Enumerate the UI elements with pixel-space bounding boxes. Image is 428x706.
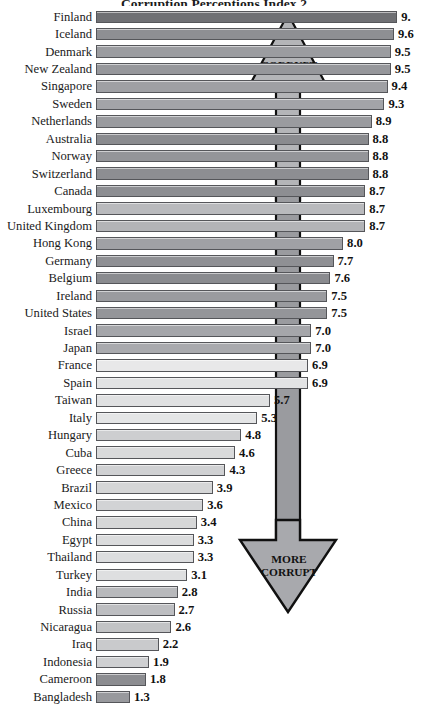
bar-row: Iraq2.2 bbox=[0, 636, 428, 653]
bar-value-label: 7.6 bbox=[334, 271, 350, 285]
bar-row: Denmark9.5 bbox=[0, 43, 428, 60]
bar-category-label: Taiwan bbox=[0, 393, 92, 407]
bar-value-label: 8.8 bbox=[373, 132, 389, 146]
bar bbox=[96, 394, 270, 406]
bar-row: France6.9 bbox=[0, 357, 428, 374]
bar-row: Turkey3.1 bbox=[0, 566, 428, 583]
bar-value-label: 3.3 bbox=[198, 533, 214, 547]
bar-value-label: 2.7 bbox=[179, 603, 195, 617]
bar bbox=[96, 429, 241, 441]
bar-value-label: 9.3 bbox=[388, 97, 404, 111]
bar-value-label: 3.4 bbox=[201, 515, 217, 529]
bar-row: Indonesia1.9 bbox=[0, 653, 428, 670]
bar-row: Japan7.0 bbox=[0, 339, 428, 356]
bar-category-label: Canada bbox=[0, 184, 92, 198]
bar bbox=[96, 481, 213, 493]
bar-category-label: India bbox=[0, 585, 92, 599]
bar-value-label: 7.0 bbox=[315, 324, 331, 338]
bar-category-label: Germany bbox=[0, 254, 92, 268]
bar bbox=[96, 202, 365, 214]
bar-value-label: 6.9 bbox=[312, 376, 328, 390]
bar-category-label: Egypt bbox=[0, 533, 92, 547]
bar-value-label: 2.6 bbox=[175, 620, 191, 634]
bar-row: Iceland9.6 bbox=[0, 25, 428, 42]
bar bbox=[96, 45, 391, 57]
bar-value-label: 4.8 bbox=[245, 428, 261, 442]
bar-category-label: Finland bbox=[0, 10, 92, 24]
bar bbox=[96, 28, 394, 40]
bar-value-label: 6.9 bbox=[312, 358, 328, 372]
bar bbox=[96, 499, 203, 511]
bar-category-label: Russia bbox=[0, 603, 92, 617]
bar-category-label: Cameroon bbox=[0, 672, 92, 686]
bar-row: Taiwan5.7 bbox=[0, 392, 428, 409]
bar-value-label: 1.8 bbox=[150, 672, 166, 686]
bar-row: Greece4.3 bbox=[0, 461, 428, 478]
bar-row: Luxembourg8.7 bbox=[0, 200, 428, 217]
bar-category-label: Turkey bbox=[0, 568, 92, 582]
bar-category-label: Norway bbox=[0, 149, 92, 163]
bar-category-label: Sweden bbox=[0, 97, 92, 111]
bar-category-label: Australia bbox=[0, 132, 92, 146]
bar-value-label: 7.5 bbox=[331, 306, 347, 320]
bar-category-label: Iraq bbox=[0, 637, 92, 651]
bar-row: Norway8.8 bbox=[0, 148, 428, 165]
bar bbox=[96, 290, 327, 302]
bar-category-label: United Kingdom bbox=[0, 219, 92, 233]
bar-value-label: 9.6 bbox=[398, 27, 414, 41]
bar-category-label: Belgium bbox=[0, 271, 92, 285]
bar bbox=[96, 377, 308, 389]
bar-category-label: Mexico bbox=[0, 498, 92, 512]
bar-value-label: 3.9 bbox=[217, 481, 233, 495]
bar bbox=[96, 255, 334, 267]
bar-value-label: 5.7 bbox=[274, 393, 290, 407]
bar-row: Israel7.0 bbox=[0, 322, 428, 339]
bar-category-label: Iceland bbox=[0, 27, 92, 41]
bar-category-label: Indonesia bbox=[0, 655, 92, 669]
bar bbox=[96, 586, 178, 598]
bar bbox=[96, 220, 365, 232]
bar bbox=[96, 63, 391, 75]
bar-value-label: 8.7 bbox=[369, 184, 385, 198]
bar-row: Mexico3.6 bbox=[0, 496, 428, 513]
bar-row: Finland9. bbox=[0, 8, 428, 25]
bar-row: Germany7.7 bbox=[0, 252, 428, 269]
bar bbox=[96, 133, 369, 145]
bar bbox=[96, 656, 149, 668]
bar bbox=[96, 638, 159, 650]
bar bbox=[96, 80, 388, 92]
bar-row: China3.4 bbox=[0, 514, 428, 531]
bar bbox=[96, 307, 327, 319]
bar-category-label: Greece bbox=[0, 463, 92, 477]
bar bbox=[96, 534, 194, 546]
bar bbox=[96, 11, 397, 23]
page-title: Corruption Perceptions Index 2 bbox=[0, 0, 428, 6]
bar bbox=[96, 464, 225, 476]
bar bbox=[96, 412, 257, 424]
bar-row: Italy5.3 bbox=[0, 409, 428, 426]
bar bbox=[96, 691, 130, 703]
bar-category-label: Bangladesh bbox=[0, 690, 92, 704]
bar-category-label: Luxembourg bbox=[0, 202, 92, 216]
bar-row: Hong Kong8.0 bbox=[0, 235, 428, 252]
bar-value-label: 7.7 bbox=[338, 254, 354, 268]
bar-row: Sweden9.3 bbox=[0, 95, 428, 112]
bar bbox=[96, 185, 365, 197]
bar-row: Netherlands8.9 bbox=[0, 113, 428, 130]
bar-value-label: 8.8 bbox=[373, 149, 389, 163]
bar-row: Belgium7.6 bbox=[0, 270, 428, 287]
bar-category-label: Nicaragua bbox=[0, 620, 92, 634]
bar bbox=[96, 516, 197, 528]
bar-row: Australia8.8 bbox=[0, 130, 428, 147]
bar-category-label: Singapore bbox=[0, 79, 92, 93]
bar bbox=[96, 621, 171, 633]
bar bbox=[96, 167, 369, 179]
bar bbox=[96, 324, 311, 336]
bar bbox=[96, 150, 369, 162]
bar bbox=[96, 237, 343, 249]
bar bbox=[96, 98, 384, 110]
bar-row: Thailand3.3 bbox=[0, 549, 428, 566]
bar-value-label: 1.3 bbox=[134, 690, 150, 704]
bar-value-label: 8.7 bbox=[369, 202, 385, 216]
bar-row: Bangladesh1.3 bbox=[0, 688, 428, 705]
